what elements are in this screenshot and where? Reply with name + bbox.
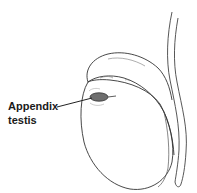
- testis-diagram: [0, 0, 197, 193]
- leader-line: [57, 98, 92, 107]
- label-appendix: Appendix: [8, 100, 58, 113]
- testis-fold: [158, 112, 169, 187]
- epididymis: [87, 53, 174, 155]
- spermatic-cord: [168, 12, 187, 187]
- appendix-testis: [89, 88, 116, 105]
- label-testis: testis: [8, 114, 37, 127]
